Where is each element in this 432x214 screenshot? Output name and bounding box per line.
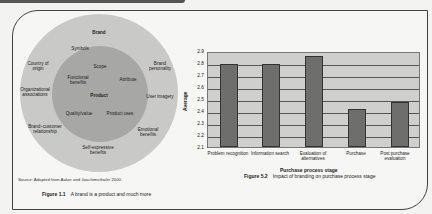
figure-1-1-caption: Figure 1.1A brand is a product and much … — [42, 191, 151, 197]
figure-caption-text: Impact of branding on purchase process s… — [273, 173, 376, 179]
bar-purchase — [348, 109, 366, 147]
inner-item: Functional benefits — [64, 75, 92, 85]
y-tick: 2.4 — [190, 109, 204, 114]
bar-information-search — [262, 64, 280, 147]
figure-number: Figure 1.1 — [42, 191, 66, 197]
inner-item: Attribute — [119, 77, 136, 82]
inner-item: Scope — [93, 64, 106, 69]
y-tick: 2.6 — [190, 85, 204, 90]
x-tick-label: Information search — [249, 151, 291, 156]
x-tick-label: Post purchase evaluation — [378, 151, 412, 161]
outer-item: Brand personality — [146, 61, 174, 71]
figure-caption-text: A brand is a product and much more — [71, 191, 152, 197]
x-tick-label: Purchase — [335, 151, 377, 156]
outer-item: Country of origin — [23, 61, 53, 71]
outer-item: Self-expressive benefits — [81, 145, 115, 155]
figure-5-2-caption: Figure 5.2Impact of branding on purchase… — [244, 173, 375, 179]
outer-item: Brand–customer relationship — [27, 124, 63, 134]
bar-evaluation-of-alternatives — [305, 56, 323, 147]
y-tick: 2.7 — [190, 73, 204, 78]
figure-source: Source: Adapted from Aaker and Joachimst… — [18, 177, 122, 182]
y-tick: 2.3 — [190, 121, 204, 126]
y-tick: 2.1 — [190, 145, 204, 150]
page-edge-bar — [0, 0, 185, 3]
x-tick-label: Problem recognition — [207, 151, 249, 156]
bar-chart: Average 2.9 2.8 2.7 2.6 2.5 2.4 2.3 2.2 … — [180, 45, 430, 165]
y-tick: 2.5 — [190, 97, 204, 102]
outer-item: Symbols — [71, 46, 89, 51]
outer-item: Organizational associations — [17, 87, 53, 97]
outer-item: Emotional benefits — [134, 127, 162, 137]
inner-item: Product uses — [107, 111, 134, 116]
bar-problem-recognition — [220, 64, 238, 147]
brand-label: Brand — [92, 30, 105, 35]
bar-post-purchase-evaluation — [391, 102, 409, 147]
inner-item: Quality/value — [66, 111, 93, 116]
plot-area — [207, 52, 420, 148]
brand-product-diagram: Brand Symbols Country of origin Organiza… — [20, 14, 178, 172]
figure-number: Figure 5.2 — [244, 173, 268, 179]
y-tick: 2.8 — [190, 61, 204, 66]
outer-item: User imagery — [146, 94, 173, 99]
y-tick: 2.2 — [190, 133, 204, 138]
y-axis-title: Average — [182, 91, 188, 111]
x-tick-label: Evaluation of alternatives — [292, 151, 334, 161]
product-label: Product — [90, 93, 107, 98]
y-tick: 2.9 — [190, 49, 204, 54]
